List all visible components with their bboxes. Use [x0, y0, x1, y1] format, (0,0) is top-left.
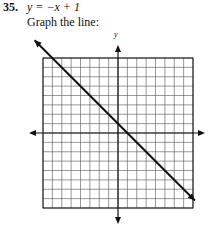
y-axis-down-arrow-icon [115, 217, 121, 224]
graphed-line [35, 40, 195, 200]
y-axis-up-arrow-icon [115, 45, 121, 52]
x-axis-right-arrow-icon [198, 130, 205, 136]
coordinate-graph [0, 0, 209, 229]
x-axis-left-arrow-icon [29, 130, 36, 136]
